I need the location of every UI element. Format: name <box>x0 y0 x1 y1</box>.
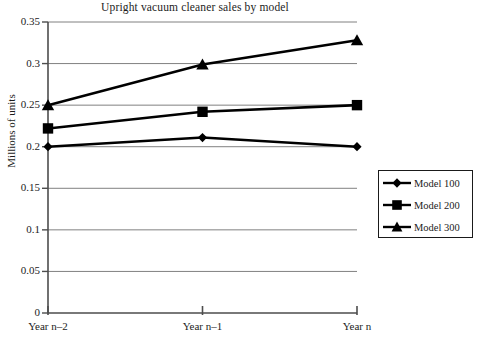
x-tick-label: Year n <box>312 321 402 332</box>
y-tick-label: 0.05 <box>4 265 40 276</box>
y-tick-label: 0.2 <box>4 141 40 152</box>
legend: Model 100 Model 200 Model 300 <box>378 170 473 238</box>
legend-label: Model 100 <box>412 178 460 189</box>
y-tick-label: 0.25 <box>4 99 40 110</box>
legend-label: Model 300 <box>412 222 460 233</box>
data-point-square <box>43 123 53 133</box>
data-point-square <box>352 100 362 110</box>
y-axis-ticks <box>42 22 48 313</box>
data-point-square <box>197 107 207 117</box>
y-tick-label: 0.35 <box>4 16 40 27</box>
x-tick-label: Year n–2 <box>3 321 93 332</box>
y-tick-label: 0.1 <box>4 224 40 235</box>
triangle-marker-icon <box>382 218 412 236</box>
square-marker-icon <box>382 196 412 214</box>
diamond-marker-icon <box>382 174 412 192</box>
y-tick-label: 0.3 <box>4 58 40 69</box>
data-point-diamond <box>352 142 361 151</box>
data-point-diamond <box>43 142 52 151</box>
y-tick-label: 0 <box>4 307 40 318</box>
y-tick-label: 0.15 <box>4 182 40 193</box>
legend-label: Model 200 <box>412 200 460 211</box>
x-tick-label: Year n–1 <box>158 321 248 332</box>
series-lines <box>48 40 357 146</box>
legend-item-model-200: Model 200 <box>382 195 472 215</box>
legend-item-model-300: Model 300 <box>382 217 472 237</box>
series-line-model-300 <box>48 40 357 105</box>
legend-item-model-100: Model 100 <box>382 173 472 193</box>
chart-container: Upright vacuum cleaner sales by model Mi… <box>0 0 477 345</box>
data-point-diamond <box>198 133 207 142</box>
